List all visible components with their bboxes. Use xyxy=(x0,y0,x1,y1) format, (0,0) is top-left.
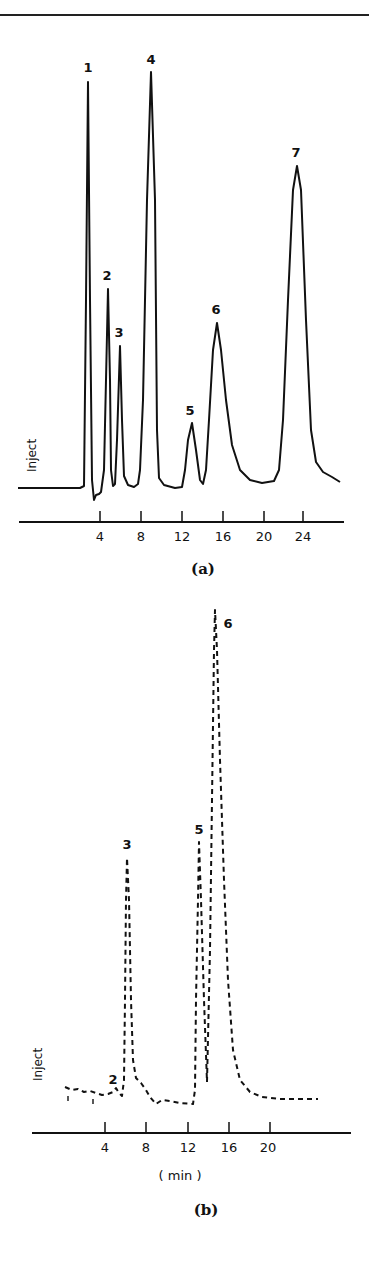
peak-label-6: 6 xyxy=(211,302,220,317)
panel-b-unit-label: ( min ) xyxy=(159,1168,202,1183)
panel-a-tick-12: 12 xyxy=(174,529,191,544)
panel-a-trace xyxy=(18,72,340,500)
panel-a-tick-8: 8 xyxy=(137,529,145,544)
panel-a-ticks xyxy=(100,511,303,522)
panel-a-tick-4: 4 xyxy=(96,529,104,544)
peak-label-b-3: 3 xyxy=(122,837,131,852)
panel-a-tick-16: 16 xyxy=(215,529,232,544)
peak-label-b-5: 5 xyxy=(194,822,203,837)
panel-b-caption: (b) xyxy=(194,1201,219,1219)
panel-b-tick-4: 4 xyxy=(101,1140,109,1155)
peak-label-1: 1 xyxy=(83,60,92,75)
peak-label-7: 7 xyxy=(291,145,300,160)
peak-label-b-6: 6 xyxy=(223,616,232,631)
panel-b: 4 8 12 16 20 ( min ) Inject 2 3 5 6 (b) xyxy=(31,610,351,1219)
panel-a-tick-20: 20 xyxy=(256,529,273,544)
peak-label-3: 3 xyxy=(114,325,123,340)
panel-a: 4 8 12 16 20 24 Inject 1 2 3 4 5 6 7 (a) xyxy=(18,52,344,578)
panel-a-inject-label: Inject xyxy=(25,439,39,472)
panel-b-tick-12: 12 xyxy=(180,1140,197,1155)
panel-b-tick-8: 8 xyxy=(142,1140,150,1155)
peak-label-2: 2 xyxy=(102,268,111,283)
panel-a-tick-24: 24 xyxy=(295,529,312,544)
peak-label-b-2: 2 xyxy=(108,1072,117,1087)
panel-b-inject-label: Inject xyxy=(31,1048,45,1081)
panel-b-tick-16: 16 xyxy=(221,1140,238,1155)
panel-a-caption: (a) xyxy=(191,560,215,578)
peak-label-4: 4 xyxy=(146,52,155,67)
panel-b-tick-20: 20 xyxy=(260,1140,277,1155)
panel-b-ticks xyxy=(105,1122,270,1133)
peak-label-5: 5 xyxy=(185,403,194,418)
chromatogram-figure: 4 8 12 16 20 24 Inject 1 2 3 4 5 6 7 (a) xyxy=(0,0,369,1265)
panel-b-trace xyxy=(65,610,318,1104)
